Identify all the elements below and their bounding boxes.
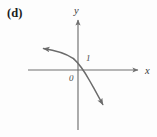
- curve-left-branch: [44, 49, 74, 59]
- graph-plot: y x 0 1: [0, 0, 157, 137]
- x-axis-label: x: [144, 65, 150, 76]
- y-intercept-label: 1: [86, 53, 91, 63]
- origin-label: 0: [69, 73, 74, 83]
- y-axis-label: y: [73, 5, 79, 16]
- figure-container: (d) y x 0 1: [0, 0, 157, 137]
